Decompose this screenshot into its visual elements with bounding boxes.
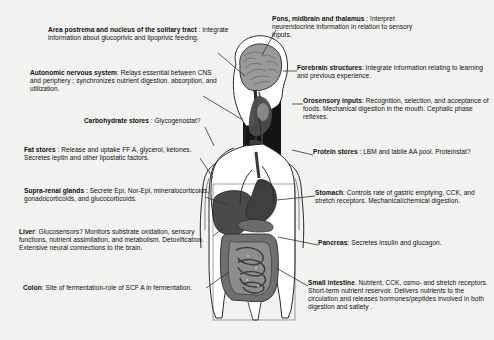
callout-term-pancreas: Pancreas — [318, 239, 348, 246]
callout-term-liver: Liver — [19, 228, 35, 235]
callout-colon: Colon: Site of fermentation-role of SCF … — [23, 284, 208, 292]
callout-term-supra-renal: Supra-renal glands — [24, 187, 84, 194]
callout-term-forebrain: Forebrain structures — [297, 64, 362, 71]
callout-small-intestine: Small intestine. Nutrient, CCK, osmo- an… — [308, 279, 490, 311]
callout-forebrain-structures: Forebrain structures: Integrate informat… — [297, 64, 487, 80]
callout-protein-stores: Protein stores : LBM and labile AA pool.… — [313, 148, 488, 156]
callout-body-liver: Glucosensors? Monitors substrate oxidati… — [19, 228, 204, 251]
callout-term-stomach: Stomach — [315, 189, 343, 196]
callout-autonomic-nervous-system: Autonomic nervous system: Relays essenti… — [30, 69, 220, 93]
callout-pancreas: Pancreas: Secretes insulin and glucagon. — [318, 239, 490, 247]
callout-term-pons: Pons, midbrain and thalamus — [272, 15, 365, 22]
callout-carbohydrate-stores: Carbohydrate stores : Glycogenostat? — [84, 117, 234, 125]
callout-term-orosensory: Orosensory inputs — [303, 97, 362, 104]
callout-body-pancreas: Secretes insulin and glucagon. — [351, 239, 441, 246]
callout-body-colon: Site of fermentation-role of SCF A in fe… — [46, 284, 193, 291]
callout-body-carbohydrate: Glycogenostat? — [154, 117, 200, 124]
callout-term-area-postrema: Area postrema and nucleus of the solitar… — [48, 26, 197, 33]
callout-stomach: Stomach: Controls rate of gastric emptyi… — [315, 189, 487, 205]
callout-orosensory-inputs: Orosensory inputs: Recognition, selectio… — [303, 97, 489, 121]
callout-term-fat: Fat stores — [24, 146, 56, 153]
callout-pons-midbrain-thalamus: Pons, midbrain and thalamus : Interpret … — [272, 15, 422, 39]
callout-term-autonomic: Autonomic nervous system — [30, 69, 117, 76]
callout-body-protein: LBM and labile AA pool. Proteinstat? — [363, 148, 470, 155]
callout-supra-renal-glands: Supra-renal glands : Secrete Epi, Nor-Ep… — [24, 187, 214, 203]
callout-fat-stores: Fat stores : Release and uptake FF A, gl… — [24, 146, 199, 162]
callout-term-protein: Protein stores — [313, 148, 358, 155]
callout-term-small-intestine: Small intestine — [308, 279, 355, 286]
callout-term-carbohydrate: Carbohydrate stores — [84, 117, 149, 124]
callout-term-colon: Colon — [23, 284, 42, 291]
callout-area-postrema: Area postrema and nucleus of the solitar… — [48, 26, 233, 42]
callout-liver: Liver: Glucosensors? Monitors substrate … — [19, 228, 214, 252]
